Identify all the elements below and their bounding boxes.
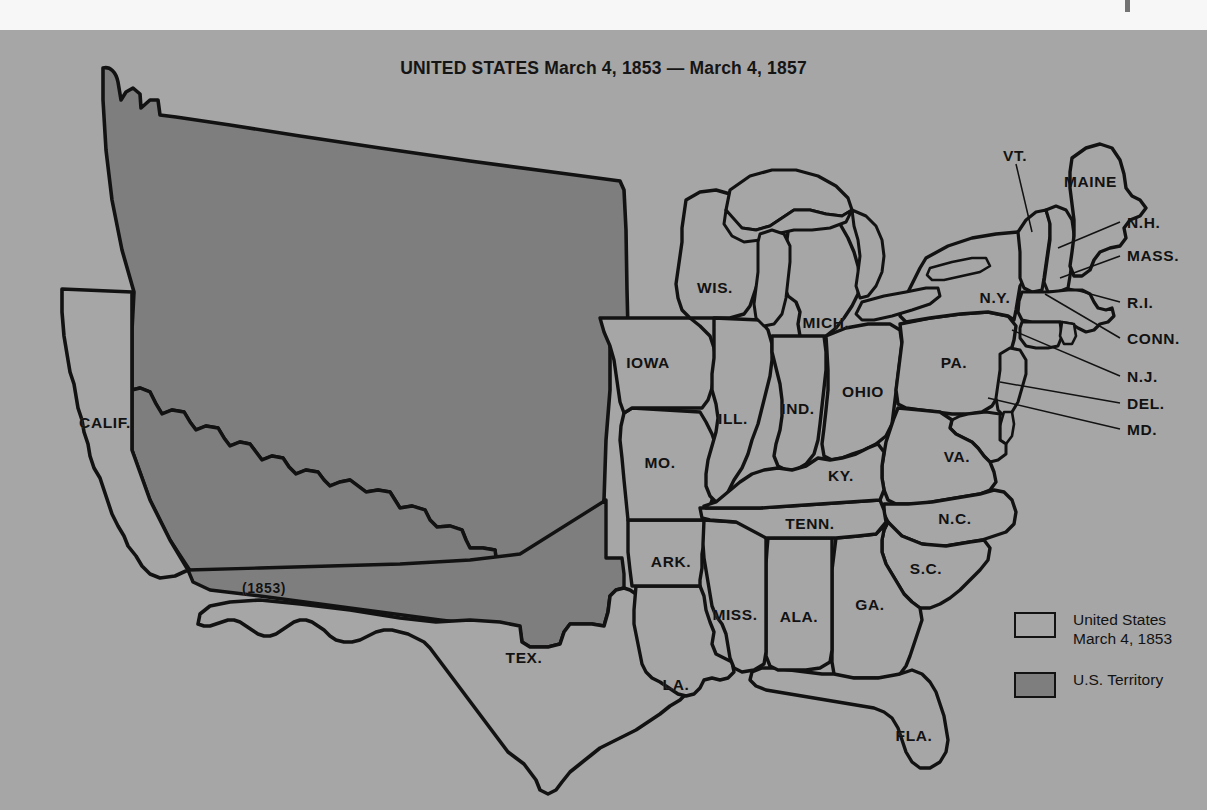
legend-swatch-united-states (1014, 612, 1056, 638)
state-label-ark: ARK. (651, 553, 691, 571)
state-rhode-island (1060, 322, 1076, 344)
state-label-va: VA. (944, 448, 971, 466)
state-label-del: DEL. (1127, 395, 1165, 413)
state-label-nc: N.C. (938, 510, 971, 528)
state-label-conn: CONN. (1127, 330, 1180, 348)
state-label-wis: WIS. (697, 279, 733, 297)
state-label-miss: MISS. (712, 606, 757, 624)
state-label-ala: ALA. (780, 608, 819, 626)
state-label-vt: VT. (1003, 147, 1027, 165)
lake-michigan (754, 230, 790, 326)
legend-label-us-territory: U.S. Territory (1073, 670, 1163, 689)
state-label-ny: N.Y. (980, 289, 1011, 307)
state-label-ohio: OHIO (842, 383, 884, 401)
legend-label-united-states: United States March 4, 1853 (1073, 610, 1172, 648)
lake-huron (852, 210, 884, 298)
state-label-ky: KY. (828, 467, 854, 485)
state-label-tenn: TENN. (785, 515, 835, 533)
state-label-nh: N.H. (1127, 214, 1160, 232)
state-label-maine: MAINE (1064, 173, 1117, 191)
legend-swatch-us-territory (1014, 672, 1056, 698)
state-label-sc: S.C. (910, 560, 943, 578)
state-label-ri: R.I. (1127, 294, 1154, 312)
state-label-fla: FLA. (896, 727, 933, 745)
annotation-gadsden-purchase-year: (1853) (242, 580, 286, 596)
state-connecticut (1020, 322, 1062, 348)
state-florida (750, 668, 948, 768)
scan-artifact-mark (1125, 0, 1130, 12)
state-label-ill: ILL. (718, 410, 748, 428)
state-label-pa: PA. (941, 354, 968, 372)
state-label-nj: N.J. (1127, 368, 1158, 386)
paper-top-margin (0, 0, 1207, 30)
state-label-mich: MICH. (803, 314, 850, 332)
state-delaware (1000, 412, 1014, 444)
state-label-mass: MASS. (1127, 247, 1179, 265)
state-label-ind: IND. (781, 400, 814, 418)
state-label-calif: CALIF. (79, 414, 131, 432)
page-title: UNITED STATES March 4, 1853 — March 4, 1… (0, 58, 1207, 79)
state-label-ga: GA. (855, 596, 884, 614)
state-label-iowa: IOWA (626, 354, 670, 372)
legend-item-us-territory: U.S. Territory (1014, 670, 1204, 698)
state-label-mo: MO. (644, 454, 675, 472)
state-label-la: LA. (663, 676, 690, 694)
map-page: UNITED STATES March 4, 1853 — March 4, 1… (0, 0, 1207, 810)
state-label-md: MD. (1127, 421, 1157, 439)
map-canvas: UNITED STATES March 4, 1853 — March 4, 1… (0, 30, 1207, 810)
state-label-tex: TEX. (506, 649, 543, 667)
legend-item-united-states: United States March 4, 1853 (1014, 610, 1204, 648)
map-legend: United States March 4, 1853 U.S. Territo… (1014, 610, 1204, 720)
state-alabama (766, 538, 832, 670)
state-new-hampshire (1044, 206, 1074, 292)
